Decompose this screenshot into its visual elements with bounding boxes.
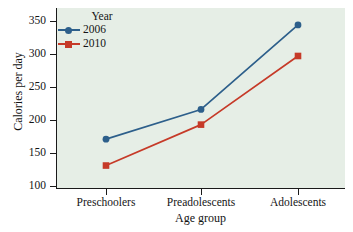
- legend-item-2010[interactable]: 2010: [58, 37, 130, 51]
- legend-marker-square-icon: [58, 38, 80, 50]
- y-tick-mark: [50, 54, 56, 55]
- legend-title: Year: [58, 10, 130, 23]
- y-tick-mark: [50, 87, 56, 88]
- y-tick-mark: [50, 120, 56, 121]
- x-tick-mark: [106, 189, 107, 195]
- legend-item-2006[interactable]: 2006: [58, 23, 130, 37]
- x-tick-mark: [201, 189, 202, 195]
- y-tick-mark: [50, 21, 56, 22]
- y-axis-title: Calories per day: [11, 22, 26, 162]
- x-tick-label: Adolescents: [243, 197, 353, 209]
- legend: Year 2006 2010: [58, 10, 130, 51]
- y-tick-label: 100: [6, 180, 46, 192]
- legend-marker-circle-icon: [58, 24, 80, 36]
- x-tick-mark: [298, 189, 299, 195]
- legend-label: 2006: [80, 24, 106, 36]
- chart-figure: 350 300 250 200 150 100 Preschoolers Pre…: [0, 0, 353, 232]
- legend-label: 2010: [80, 38, 106, 50]
- y-tick-mark: [50, 186, 56, 187]
- x-axis-title: Age group: [56, 211, 345, 226]
- y-tick-mark: [50, 153, 56, 154]
